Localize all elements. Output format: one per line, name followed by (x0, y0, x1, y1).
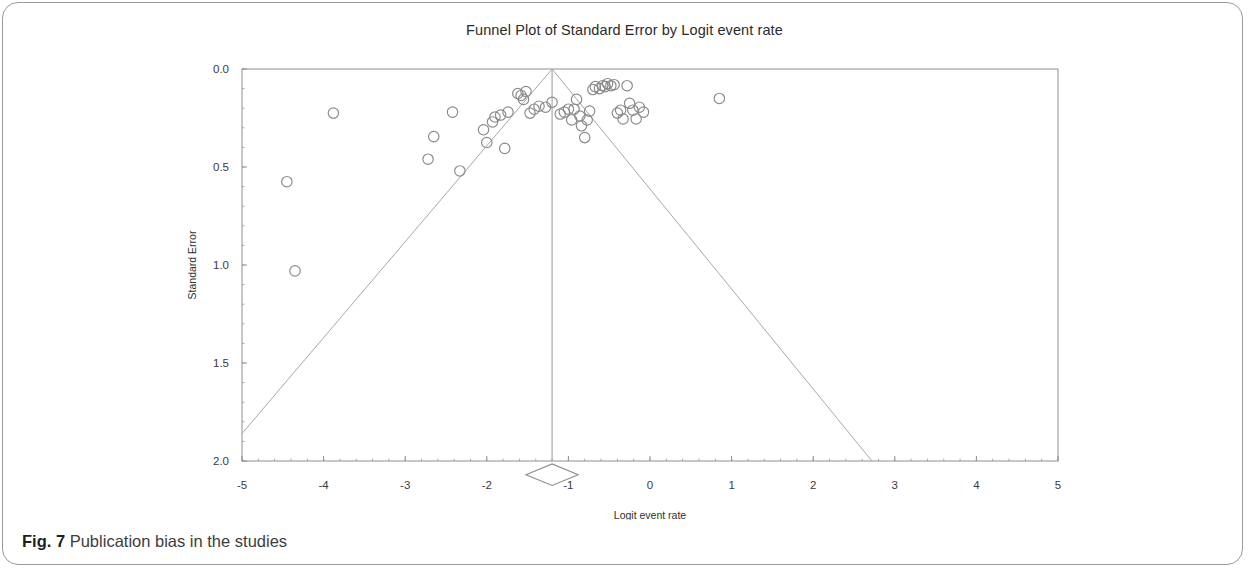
y-axis-tick-label: 0.0 (213, 63, 229, 75)
x-axis-tick-label: -4 (318, 479, 329, 491)
y-axis-tick-label: 0.5 (213, 161, 229, 173)
data-point-marker (500, 143, 510, 153)
funnel-limit-line-left (242, 69, 552, 434)
figure-caption: Fig. 7 Publication bias in the studies (22, 532, 287, 551)
x-axis-tick-label: 1 (728, 479, 734, 491)
data-point-marker (328, 108, 338, 118)
x-axis-tick-label: 2 (810, 479, 816, 491)
y-axis-tick-label: 1.5 (213, 357, 229, 369)
funnel-plot-chart: Funnel Plot of Standard Error by Logit e… (0, 0, 1249, 520)
data-point-marker (714, 93, 724, 103)
data-point-marker (566, 115, 576, 125)
x-axis-tick-label: -5 (237, 479, 247, 491)
data-point-marker (622, 80, 632, 90)
x-axis-title: Logit event rate (614, 509, 687, 520)
data-point-marker (290, 266, 300, 276)
data-point-marker (624, 98, 634, 108)
x-axis-tick-label: 4 (973, 479, 980, 491)
x-axis-tick-label: 3 (892, 479, 898, 491)
x-axis-tick-label: -2 (482, 479, 492, 491)
data-point-marker (429, 131, 439, 141)
figure-container: Funnel Plot of Standard Error by Logit e… (0, 0, 1249, 569)
funnel-plot-svg: -5-4-3-2-10123450.00.51.01.52.0Logit eve… (0, 0, 1249, 520)
x-axis-tick-label: 0 (647, 479, 653, 491)
y-axis-title: Standard Error (186, 230, 198, 299)
x-axis-tick-label: 5 (1055, 479, 1061, 491)
caption-text: Publication bias in the studies (70, 532, 287, 550)
x-axis-tick-label: -3 (400, 479, 410, 491)
plot-frame (242, 69, 1058, 461)
funnel-limit-line-right (552, 69, 872, 461)
y-axis-tick-label: 2.0 (213, 455, 229, 467)
data-point-marker (612, 108, 622, 118)
data-point-marker (478, 125, 488, 135)
caption-label: Fig. 7 (22, 532, 65, 550)
data-point-marker (580, 132, 590, 142)
data-point-marker (423, 154, 433, 164)
data-point-marker (455, 166, 465, 176)
data-point-marker (576, 121, 586, 131)
data-point-marker (447, 107, 457, 117)
y-axis-tick-label: 1.0 (213, 259, 229, 271)
data-point-marker (282, 177, 292, 187)
